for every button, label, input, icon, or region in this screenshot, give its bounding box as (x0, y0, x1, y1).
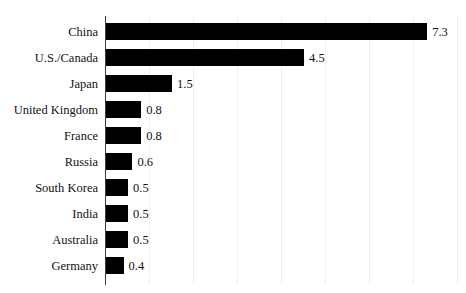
bar-row: U.S./Canada4.5 (0, 45, 466, 71)
bar-value-label: 7.3 (432, 19, 448, 45)
category-label: South Korea (0, 175, 98, 201)
bar-chart: China7.3U.S./Canada4.5Japan1.5United Kin… (0, 0, 466, 293)
category-label: China (0, 19, 98, 45)
bar-row: India0.5 (0, 201, 466, 227)
bar-row: Germany0.4 (0, 253, 466, 279)
bar-value-label: 0.6 (137, 149, 153, 175)
bar (106, 179, 128, 196)
bar (106, 75, 172, 92)
bar-row: United Kingdom0.8 (0, 97, 466, 123)
bar (106, 153, 132, 170)
bar-row: Japan1.5 (0, 71, 466, 97)
bar-rows: China7.3U.S./Canada4.5Japan1.5United Kin… (0, 16, 466, 285)
bar-value-label: 0.5 (133, 175, 149, 201)
bar (106, 231, 128, 248)
category-label: Australia (0, 227, 98, 253)
bar-row: South Korea0.5 (0, 175, 466, 201)
category-label: United Kingdom (0, 97, 98, 123)
bar-row: Russia0.6 (0, 149, 466, 175)
category-label: Japan (0, 71, 98, 97)
bar-row: Australia0.5 (0, 227, 466, 253)
bar (106, 101, 141, 118)
bar-value-label: 1.5 (177, 71, 193, 97)
bar-value-label: 0.5 (133, 201, 149, 227)
category-label: U.S./Canada (0, 45, 98, 71)
bar-row: France0.8 (0, 123, 466, 149)
bar (106, 205, 128, 222)
bar-value-label: 0.8 (146, 97, 162, 123)
category-label: Germany (0, 253, 98, 279)
bar-value-label: 0.8 (146, 123, 162, 149)
bar-value-label: 0.5 (133, 227, 149, 253)
bar-value-label: 0.4 (129, 253, 145, 279)
bar (106, 127, 141, 144)
bar (106, 49, 304, 66)
bar-value-label: 4.5 (309, 45, 325, 71)
bar-row: China7.3 (0, 19, 466, 45)
category-label: India (0, 201, 98, 227)
bar (106, 257, 124, 274)
category-label: Russia (0, 149, 98, 175)
bar (106, 23, 427, 40)
category-label: France (0, 123, 98, 149)
